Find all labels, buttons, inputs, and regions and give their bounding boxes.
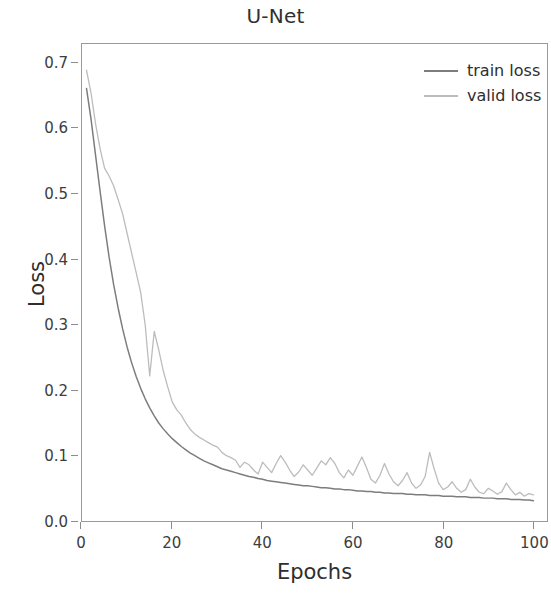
y-tick-mark: [71, 455, 78, 456]
x-axis-label: Epochs: [81, 560, 548, 584]
x-tick-label: 80: [414, 533, 474, 553]
x-tick-label: 40: [232, 533, 292, 553]
x-tick-mark: [443, 522, 444, 529]
x-tick-mark: [533, 522, 534, 529]
y-tick-label: 0.2: [44, 381, 68, 401]
x-tick-mark: [352, 522, 353, 529]
x-tick-mark: [261, 522, 262, 529]
y-tick-mark: [71, 521, 78, 522]
y-tick-label: 0.6: [44, 118, 68, 138]
legend-line-swatch: [424, 70, 458, 72]
x-tick-mark: [80, 522, 81, 529]
y-tick-mark: [71, 390, 78, 391]
x-tick-label: 100: [504, 533, 551, 553]
y-tick-label: 0.0: [44, 512, 68, 532]
y-tick-mark: [71, 259, 78, 260]
y-tick-label: 0.3: [44, 315, 68, 335]
y-tick-label: 0.5: [44, 184, 68, 204]
y-tick-mark: [71, 324, 78, 325]
plot-area: [81, 43, 548, 522]
train-loss-line: [87, 88, 534, 500]
x-tick-label: 20: [142, 533, 202, 553]
y-tick-label: 0.1: [44, 446, 68, 466]
legend-label: train loss: [467, 61, 540, 81]
x-tick-label: 0: [51, 533, 111, 553]
legend-line-swatch: [424, 95, 458, 97]
valid-loss-line: [87, 70, 534, 496]
y-tick-mark: [71, 62, 78, 63]
y-tick-mark: [71, 193, 78, 194]
chart-legend: train lossvalid loss: [424, 58, 544, 108]
plot-lines: [82, 44, 547, 521]
x-tick-label: 60: [323, 533, 383, 553]
legend-label: valid loss: [467, 86, 541, 106]
y-tick-label: 0.4: [44, 250, 68, 270]
y-tick-label: 0.7: [44, 53, 68, 73]
x-tick-mark: [171, 522, 172, 529]
chart-title: U-Net: [0, 2, 551, 30]
legend-item-valid-loss[interactable]: valid loss: [424, 83, 544, 108]
chart-figure: U-Net Loss Epochs 0.00.10.20.30.40.50.60…: [0, 0, 551, 597]
y-tick-mark: [71, 127, 78, 128]
legend-item-train-loss[interactable]: train loss: [424, 58, 544, 83]
